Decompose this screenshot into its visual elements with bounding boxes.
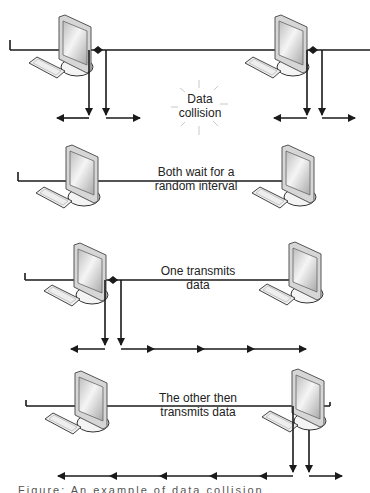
computer-icon (29, 15, 93, 78)
label-one-transmits: One transmits data (148, 264, 248, 292)
label-other-transmits: The other then transmits data (148, 391, 248, 419)
computer-icon (36, 145, 100, 208)
label-line: data (148, 278, 248, 292)
label-line: The other then (148, 391, 248, 405)
panel-other-transmits (26, 369, 342, 476)
computer-icon (259, 242, 323, 305)
panel-one-transmits (25, 242, 323, 349)
computer-icon (262, 369, 326, 432)
computer-icon (245, 15, 309, 78)
label-line: collision (172, 106, 228, 120)
label-line: transmits data (148, 405, 248, 419)
label-line: Both wait for a (136, 165, 256, 179)
figure-caption: Figure: An example of data collision (18, 484, 278, 493)
label-line: random interval (136, 179, 256, 193)
label-line: One transmits (148, 264, 248, 278)
computer-icon (45, 371, 109, 434)
computer-icon (252, 145, 316, 208)
label-wait: Both wait for a random interval (136, 165, 256, 193)
label-line: Data (172, 92, 228, 106)
csma-cd-diagram (0, 0, 370, 493)
label-data-collision: Data collision (172, 92, 228, 120)
computer-icon (44, 243, 108, 306)
